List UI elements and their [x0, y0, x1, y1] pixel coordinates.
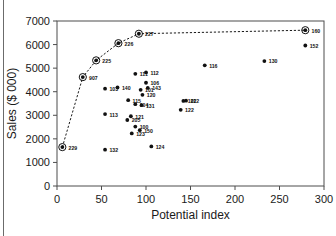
data-point-label: 102 — [188, 98, 197, 104]
data-point[interactable] — [144, 81, 148, 85]
data-point-label: 116 — [209, 63, 217, 69]
data-point[interactable] — [181, 99, 185, 103]
data-point[interactable] — [103, 148, 107, 152]
x-axis-tick-label: 100 — [137, 193, 155, 205]
data-point[interactable] — [133, 72, 137, 76]
data-point-label: 160 — [312, 28, 321, 34]
data-point-label: 124 — [156, 144, 165, 150]
data-point[interactable] — [125, 118, 129, 122]
x-axis-tick-label: 250 — [270, 193, 288, 205]
y-axis-tick-label: 5000 — [26, 62, 50, 74]
x-axis-tick-label: 200 — [226, 193, 244, 205]
data-point-label: 205 — [132, 117, 141, 123]
data-point-label: 130 — [269, 58, 278, 64]
frontier-data-point[interactable] — [81, 75, 85, 79]
data-point[interactable] — [262, 59, 266, 63]
data-point[interactable] — [130, 132, 134, 136]
data-point[interactable] — [126, 98, 130, 102]
data-point[interactable] — [203, 63, 207, 67]
y-axis-tick-label: 6000 — [26, 39, 50, 51]
data-point[interactable] — [133, 125, 137, 129]
x-axis-tick-label: 50 — [95, 193, 107, 205]
data-point-label: 140 — [122, 85, 131, 91]
y-axis-tick-label: 7000 — [26, 15, 50, 27]
x-axis-tick-label: 150 — [181, 193, 199, 205]
frontier-data-point[interactable] — [303, 28, 307, 32]
data-point-label: 113 — [109, 112, 117, 118]
data-point[interactable] — [139, 88, 143, 92]
frontier-data-point[interactable] — [137, 32, 141, 36]
data-point[interactable] — [141, 93, 145, 97]
data-point[interactable] — [140, 103, 144, 107]
data-point[interactable] — [303, 44, 307, 48]
data-point-label: 150 — [144, 128, 153, 134]
x-axis-tick-label: 0 — [54, 193, 60, 205]
data-point-label: 226 — [125, 41, 134, 47]
x-axis-tick-label: 300 — [315, 193, 333, 205]
x-axis-title: Potential index — [151, 208, 230, 222]
data-point-label: 122 — [185, 107, 194, 113]
y-axis-tick-label: 4000 — [26, 86, 50, 98]
data-point-label: 123 — [136, 131, 145, 137]
chart-svg: 0100020003000400050006000700005010015020… — [0, 0, 336, 236]
frontier-data-point[interactable] — [94, 58, 98, 62]
data-point[interactable] — [103, 112, 107, 116]
data-point-label: 120 — [147, 92, 156, 98]
data-point[interactable] — [133, 102, 137, 106]
data-point-label: 131 — [146, 103, 155, 109]
data-point-label: 132 — [109, 147, 118, 153]
data-point[interactable] — [144, 70, 148, 74]
data-point-label: 229 — [69, 145, 78, 151]
frontier-data-point[interactable] — [60, 145, 64, 149]
efficiency-frontier-line — [62, 30, 305, 147]
y-axis-tick-label: 3000 — [26, 109, 50, 121]
data-point[interactable] — [149, 145, 153, 149]
data-point[interactable] — [179, 108, 183, 112]
data-point-label: 112 — [150, 70, 158, 76]
data-point-label: 103 — [109, 86, 118, 92]
data-point-label: 152 — [310, 43, 319, 49]
y-axis-tick-label: 1000 — [26, 156, 50, 168]
y-axis-tick-label: 2000 — [26, 133, 50, 145]
data-point-label: 227 — [145, 31, 154, 37]
y-axis-tick-label: 0 — [44, 180, 50, 192]
data-point[interactable] — [103, 87, 107, 91]
y-axis-title: Sales ($ 000) — [5, 68, 19, 139]
data-point-label: 225 — [102, 58, 111, 64]
data-point-label: 907 — [89, 75, 98, 81]
frontier-data-point[interactable] — [117, 41, 121, 45]
scatter-plot-figure: 0100020003000400050006000700005010015020… — [0, 0, 336, 236]
